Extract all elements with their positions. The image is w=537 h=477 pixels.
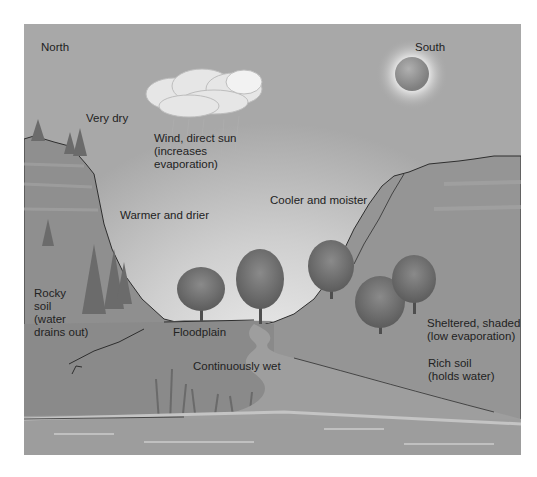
label-north: North [41,41,69,54]
label-floodplain: Floodplain [173,326,226,339]
label-south: South [415,41,445,54]
label-wind-sun: Wind, direct sun (increases evaporation) [154,132,236,171]
river [24,419,521,455]
label-sheltered: Sheltered, shaded (low evaporation) [427,317,520,343]
valley-illustration [24,24,521,455]
label-cooler-moister: Cooler and moister [270,194,367,207]
label-rich-soil: Rich soil (holds water) [428,357,494,383]
label-continuously-wet: Continuously wet [193,360,281,373]
label-rocky-soil: Rocky soil (water drains out) [34,287,88,339]
label-very-dry: Very dry [86,112,128,125]
label-warmer-drier: Warmer and drier [120,209,209,222]
diagram-frame: North South Very dry Wind, direct sun (i… [24,24,521,455]
